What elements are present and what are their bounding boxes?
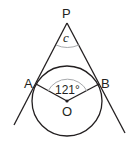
label-o: O	[62, 104, 72, 119]
tangent-circle-diagram: P A B O c 121°	[0, 0, 133, 146]
label-angle-121: 121°	[55, 83, 80, 97]
label-p: P	[62, 6, 71, 21]
label-angle-c: c	[63, 30, 69, 45]
center-point-o	[65, 99, 68, 102]
angle-arc-p	[56, 45, 79, 48]
tangent-line-right	[67, 23, 125, 133]
label-a: A	[24, 76, 33, 91]
label-b: B	[101, 76, 110, 91]
tangent-line-left	[14, 23, 67, 125]
